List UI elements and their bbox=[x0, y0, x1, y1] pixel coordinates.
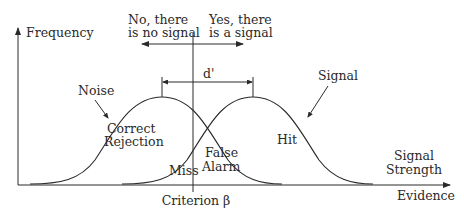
signal-leader bbox=[308, 86, 328, 117]
x-axis-label-line1: Signal bbox=[394, 148, 434, 163]
criterion-label: Criterion β bbox=[162, 193, 231, 208]
signal-label: Signal bbox=[318, 68, 358, 83]
noise-label: Noise bbox=[78, 83, 114, 98]
y-axis-label: Frequency bbox=[26, 25, 95, 40]
signal-detection-diagram: Frequency Signal Strength Evidence Crite… bbox=[0, 0, 464, 215]
false-alarm-label-line1: False bbox=[205, 145, 238, 160]
no-signal-label-line2: is no signal bbox=[128, 25, 200, 40]
noise-leader bbox=[95, 100, 108, 118]
miss-label: Miss bbox=[169, 163, 199, 178]
hit-label: Hit bbox=[277, 132, 297, 147]
dprime-label: d' bbox=[203, 66, 214, 81]
false-alarm-label-line2: Alarm bbox=[201, 159, 240, 174]
correct-rejection-label-line2: Rejection bbox=[104, 134, 164, 149]
x-axis-label-line2: Strength bbox=[386, 162, 442, 177]
yes-signal-label-line2: is a signal bbox=[209, 25, 273, 40]
x-axis-sublabel: Evidence bbox=[397, 188, 455, 203]
